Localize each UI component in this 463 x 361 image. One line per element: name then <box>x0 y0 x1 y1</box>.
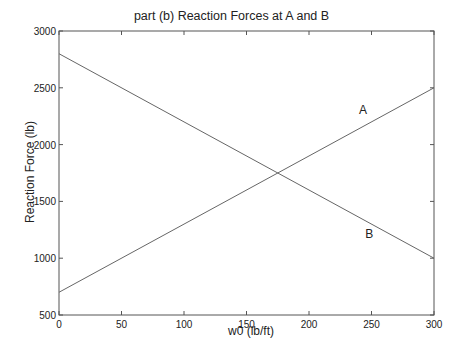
x-tick-label: 50 <box>116 319 128 330</box>
y-tick-label: 1500 <box>34 196 57 207</box>
series-line-b <box>59 54 434 258</box>
x-tick-label: 150 <box>238 319 255 330</box>
y-tick-label: 2500 <box>34 83 57 94</box>
series-label-b: B <box>365 227 373 241</box>
x-tick-label: 200 <box>301 319 318 330</box>
y-tick-label: 1000 <box>34 253 57 264</box>
axes-box <box>59 31 434 315</box>
y-tick-label: 2000 <box>34 140 57 151</box>
series-line-a <box>59 88 434 292</box>
x-tick-label: 0 <box>56 319 62 330</box>
x-tick-label: 300 <box>426 319 443 330</box>
series-label-a: A <box>359 103 367 117</box>
y-tick-label: 500 <box>39 310 56 321</box>
y-tick-label: 3000 <box>34 26 57 37</box>
x-tick-label: 100 <box>176 319 193 330</box>
plot-area: 0501001502002503005001000150020002500300… <box>0 0 463 361</box>
x-tick-label: 250 <box>363 319 380 330</box>
